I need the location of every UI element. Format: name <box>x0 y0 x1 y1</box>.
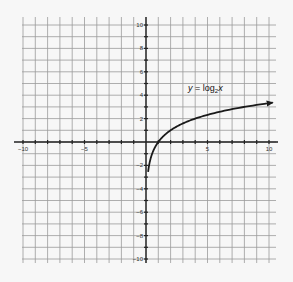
x-tick-label: −5 <box>81 146 89 152</box>
equation-suffix: x <box>217 83 223 93</box>
axes <box>14 17 278 263</box>
equation-prefix: = log <box>193 83 215 93</box>
log-curve <box>148 103 273 172</box>
log-function-graph: −10−5510108642−2−4−6−8−10 y = log2x <box>0 0 293 282</box>
y-tick-label: 10 <box>136 22 143 28</box>
x-tick-label: 10 <box>266 146 273 152</box>
x-tick-label: −10 <box>18 146 29 152</box>
y-tick-label: −4 <box>136 186 144 192</box>
equation-label: y = log2x <box>187 83 223 94</box>
y-tick-label: −2 <box>136 162 144 168</box>
y-tick-label: −10 <box>133 256 144 262</box>
y-tick-label: −6 <box>136 209 144 215</box>
x-tick-label: 5 <box>206 146 210 152</box>
y-tick-label: −8 <box>136 233 144 239</box>
